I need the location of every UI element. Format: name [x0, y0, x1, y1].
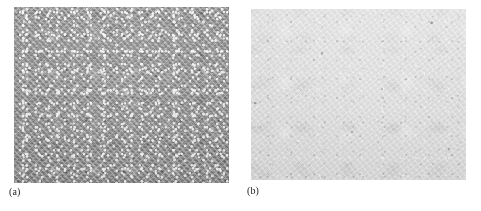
panel-a-caption: (a): [9, 186, 20, 197]
figure-container: (a) (b): [0, 0, 481, 211]
panel-a-illumination-shading: [14, 7, 229, 183]
panel-b-illumination-shading: [251, 9, 466, 180]
micrograph-panel-b: [251, 9, 466, 180]
panel-b-caption: (b): [247, 185, 259, 196]
micrograph-panel-a: [14, 7, 229, 183]
